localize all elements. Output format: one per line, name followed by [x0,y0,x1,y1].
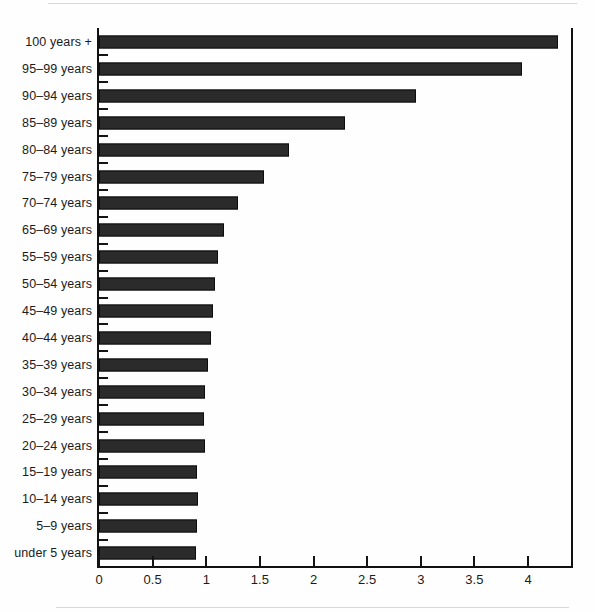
bar-category-label: 80–84 years [22,143,92,157]
bar-row: 35–39 years [0,353,595,377]
bar [99,493,198,506]
value-axis-tick-label: 0.5 [144,572,162,587]
bar-category-label: 10–14 years [22,492,92,506]
bar-row: 55–59 years [0,245,595,269]
value-axis-tick-label: 1.5 [251,572,269,587]
bar-category-label: 45–49 years [22,304,92,318]
bar-category-label: 55–59 years [22,250,92,264]
page-canvas: 100 years +95–99 years90–94 years85–89 y… [0,0,595,612]
value-axis-tick-label: 2.5 [358,572,376,587]
bar [99,466,197,479]
value-axis-tick-label: 3 [417,572,424,587]
bar [99,520,197,533]
bar-category-label: 75–79 years [22,170,92,184]
bar-row: 10–14 years [0,487,595,511]
bar-row: 95–99 years [0,57,595,81]
value-axis-tick [259,556,261,567]
value-axis-tick [473,556,475,567]
bar-row: 80–84 years [0,138,595,162]
value-axis-tick [527,556,529,567]
bar-row: 45–49 years [0,299,595,323]
bar [99,412,204,425]
value-axis-tick [420,556,422,567]
bar-category-label: 65–69 years [22,223,92,237]
bar-category-label: 25–29 years [22,412,92,426]
bar-category-label: 85–89 years [22,116,92,130]
value-axis-tick [366,556,368,567]
bar-row: under 5 years [0,541,595,565]
horizontal-bar-chart: 100 years +95–99 years90–94 years85–89 y… [0,0,595,612]
bar-row: 15–19 years [0,460,595,484]
bar-row: 20–24 years [0,434,595,458]
value-axis-tick-label: 0 [95,572,102,587]
bar-category-label: 5–9 years [36,519,92,533]
value-axis-line [97,566,573,568]
bar-row: 100 years + [0,30,595,54]
bar [99,385,205,398]
bar [99,358,208,371]
bar [99,62,522,75]
value-axis-tick [313,556,315,567]
bar-category-label: under 5 years [14,546,92,560]
bar [99,116,345,129]
bar-row: 85–89 years [0,111,595,135]
bar-row: 30–34 years [0,380,595,404]
bar-category-label: 40–44 years [22,331,92,345]
value-axis-tick [152,556,154,567]
bar-category-label: 20–24 years [22,439,92,453]
bar [99,251,218,264]
bar-category-label: 70–74 years [22,196,92,210]
bar [99,143,289,156]
bar [99,547,196,560]
bar [99,170,264,183]
bar-category-label: 50–54 years [22,277,92,291]
value-axis-tick-label: 4 [524,572,531,587]
bar-row: 65–69 years [0,218,595,242]
bar-category-label: 15–19 years [22,465,92,479]
bar [99,36,558,49]
value-axis-tick-label: 2 [310,572,317,587]
bar-row: 40–44 years [0,326,595,350]
bar-category-label: 35–39 years [22,358,92,372]
bar-category-label: 100 years + [25,35,92,49]
value-axis-tick [205,556,207,567]
bar-category-label: 30–34 years [22,385,92,399]
bar-row: 70–74 years [0,191,595,215]
bar-category-label: 90–94 years [22,89,92,103]
bar-row: 75–79 years [0,165,595,189]
bar [99,278,215,291]
bar-row: 25–29 years [0,407,595,431]
bar-row: 5–9 years [0,514,595,538]
bar-row: 50–54 years [0,272,595,296]
value-axis-tick [98,556,100,567]
bar [99,197,238,210]
bar [99,89,416,102]
bar [99,224,224,237]
bar [99,439,205,452]
bar [99,331,211,344]
bar [99,305,213,318]
value-axis-tick-label: 1 [203,572,210,587]
bar-category-label: 95–99 years [22,62,92,76]
bar-row: 90–94 years [0,84,595,108]
value-axis-tick-label: 3.5 [465,572,483,587]
